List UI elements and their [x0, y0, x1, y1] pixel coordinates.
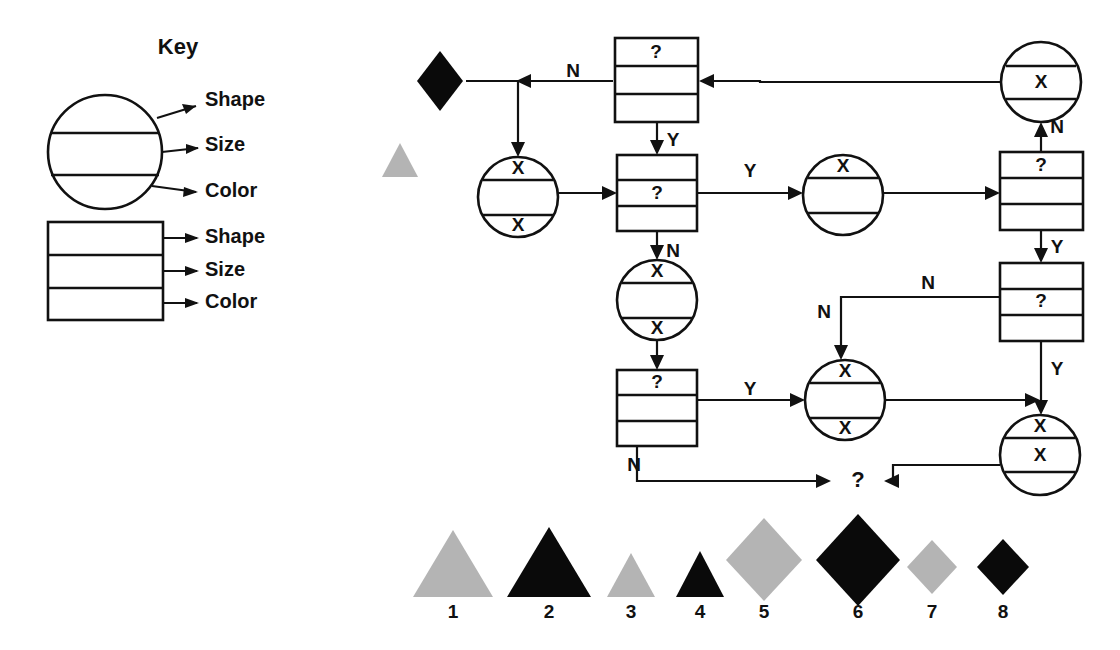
- edge-label-n-bottom: N: [627, 454, 641, 475]
- node-box-right-mid[interactable]: ?: [1000, 263, 1083, 341]
- edge-circle-rtop-to-box-top: [703, 81, 1001, 82]
- edge-label-y-bottom-right: Y: [744, 378, 757, 399]
- edge-label-n-down-circle: N: [817, 301, 831, 322]
- node-circle-left-band3-glyph: X: [512, 214, 525, 235]
- node-circle-right-top-band2-glyph: X: [1035, 71, 1048, 92]
- edge-label-n-right-left: N: [921, 272, 935, 293]
- legend-label-2: 2: [544, 601, 555, 622]
- arrowhead-to-box-top: [699, 74, 714, 88]
- edge-label-n-right-up: N: [1050, 116, 1064, 137]
- flow-edges: [466, 74, 1048, 488]
- node-circle-center[interactable]: X X: [617, 260, 697, 340]
- legend-label-3: 3: [626, 601, 637, 622]
- edge-diamond-to-circle-left: [466, 81, 518, 150]
- edge-box-bottom-N: [637, 446, 825, 481]
- edge-box-right-mid-N: [841, 297, 999, 352]
- flow-terminal-question: ?: [851, 467, 864, 492]
- arrowhead-box-right-mid-Y: [1034, 400, 1048, 415]
- arrowhead-box-right-mid-N: [834, 345, 848, 360]
- key-circle-label-size: Size: [205, 133, 245, 155]
- key-circle-label-shape: Shape: [205, 88, 265, 110]
- legend-shapes: 1 2 3 4 5 6 7 8: [413, 514, 1029, 622]
- key-circle-symbol: [48, 95, 162, 209]
- arrowhead-to-circle-left: [511, 142, 525, 157]
- node-circle-upper-band1-glyph: X: [837, 155, 850, 176]
- legend-label-1: 1: [448, 601, 459, 622]
- node-box-right-top-row1-glyph: ?: [1035, 154, 1047, 175]
- key-circle-arrow-size: [162, 144, 199, 154]
- legend-shape-6: [816, 514, 900, 606]
- legend-shape-5: [726, 518, 802, 601]
- node-box-bottom-row1-glyph: ?: [651, 371, 663, 392]
- key-box-arrow-shape: [163, 233, 199, 243]
- key-circle-arrow-color: [152, 186, 198, 197]
- node-circle-center-band1-glyph: X: [651, 260, 664, 281]
- key-panel: Key Shape Size Color: [48, 34, 265, 320]
- key-box-arrow-size: [163, 266, 199, 276]
- legend-shape-7: [907, 540, 957, 594]
- key-circle-outline: [48, 95, 162, 209]
- node-box-right-mid-row2-glyph: ?: [1035, 290, 1047, 311]
- key-box-label-color: Color: [205, 290, 257, 312]
- arrowhead-box-mid-Y: [788, 186, 803, 200]
- node-box-right-top[interactable]: ?: [1000, 152, 1083, 230]
- legend-label-8: 8: [998, 601, 1009, 622]
- key-title: Key: [158, 34, 199, 59]
- arrowhead-box-right-top-N: [1034, 122, 1048, 137]
- edge-label-y-right-down: Y: [1051, 236, 1064, 257]
- node-circle-right-bottom-band1-glyph: X: [1034, 415, 1047, 436]
- node-circle-lower-band3-glyph: X: [839, 417, 852, 438]
- loose-triangle-gray: [382, 143, 418, 177]
- edge-label-y-top-to-mid: Y: [667, 129, 680, 150]
- node-circle-right-top[interactable]: X: [1001, 42, 1081, 122]
- key-circle-arrow-shape: [157, 104, 196, 118]
- arrowhead-box-top-Y: [650, 140, 664, 155]
- node-circle-upper[interactable]: X: [803, 155, 883, 235]
- key-box-symbol: [48, 222, 163, 320]
- node-box-mid[interactable]: ?: [617, 155, 697, 231]
- node-box-bottom[interactable]: ?: [617, 370, 697, 446]
- edge-label-y-right-bottom: Y: [1051, 358, 1064, 379]
- legend-shape-2: [507, 527, 591, 597]
- legend-label-7: 7: [927, 601, 938, 622]
- node-circle-lower[interactable]: X X: [805, 360, 885, 440]
- node-box-mid-row2-glyph: ?: [651, 182, 663, 203]
- arrowhead-box-right-top-Y: [1034, 248, 1048, 263]
- node-box-top[interactable]: ?: [615, 38, 698, 122]
- node-circle-right-bottom[interactable]: X X: [1000, 415, 1080, 495]
- node-circle-left-band1-glyph: X: [512, 157, 525, 178]
- arrowhead-to-box-right-top: [985, 186, 1000, 200]
- legend-label-6: 6: [853, 601, 864, 622]
- edge-label-n-top: N: [566, 60, 580, 81]
- arrowhead-to-terminal: [884, 474, 899, 488]
- legend-shape-3: [607, 553, 655, 597]
- loose-diamond-black: [417, 51, 463, 111]
- legend-shape-1: [413, 530, 493, 597]
- node-circle-lower-band1-glyph: X: [839, 360, 852, 381]
- key-box-outline: [48, 222, 163, 320]
- arrowhead-box-bottom-Y: [790, 393, 805, 407]
- legend-shape-4: [676, 551, 724, 597]
- node-circle-center-band3-glyph: X: [651, 317, 664, 338]
- arrowhead-to-box-mid: [602, 186, 617, 200]
- edge-label-n-mid-down: N: [666, 240, 680, 261]
- edge-label-y-mid-right: Y: [744, 160, 757, 181]
- key-box-arrow-color: [163, 298, 199, 308]
- arrowhead-to-box-bottom: [650, 355, 664, 370]
- node-circle-left[interactable]: X X: [478, 157, 558, 237]
- legend-label-4: 4: [695, 601, 706, 622]
- legend-label-5: 5: [759, 601, 770, 622]
- node-box-top-row1-glyph: ?: [650, 41, 662, 62]
- key-circle-label-color: Color: [205, 179, 257, 201]
- edge-circle-rbottom-to-terminal: [890, 465, 1000, 481]
- arrowhead-box-bottom-N: [816, 474, 831, 488]
- key-box-label-size: Size: [205, 258, 245, 280]
- node-circle-right-bottom-band2-glyph: X: [1034, 444, 1047, 465]
- legend-shape-8: [977, 539, 1029, 595]
- arrowhead-box-mid-N: [650, 245, 664, 260]
- diagram-canvas: Key Shape Size Color: [0, 0, 1120, 650]
- key-box-label-shape: Shape: [205, 225, 265, 247]
